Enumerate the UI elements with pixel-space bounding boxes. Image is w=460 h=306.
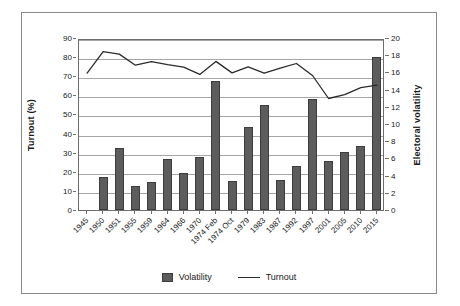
x-axis-tick	[295, 211, 296, 214]
x-axis-tick	[247, 211, 248, 214]
y-axis-left-tick-label: 60	[63, 92, 72, 100]
y-axis-left-tick-label: 40	[63, 131, 72, 139]
x-axis-tick	[263, 211, 264, 214]
x-axis-tick	[118, 211, 119, 214]
y-axis-left-tick-label: 0	[68, 207, 72, 215]
legend-label: Turnout	[266, 272, 297, 282]
y-axis-right-title: Electoral volatility	[410, 35, 424, 215]
legend-swatch-icon	[162, 273, 173, 282]
x-axis-tick	[215, 211, 216, 214]
legend-label: Volatility	[179, 272, 212, 282]
x-axis-tick	[360, 211, 361, 214]
x-axis-tick	[102, 211, 103, 214]
y-axis-right-tick-label: 10	[391, 121, 400, 129]
x-axis-tick	[312, 211, 313, 214]
legend-line-icon	[238, 277, 260, 278]
x-axis-tick	[376, 211, 377, 214]
x-axis-tick	[134, 211, 135, 214]
x-axis-tick	[86, 211, 87, 214]
x-axis-tick	[231, 211, 232, 214]
y-axis-left-tick-label: 80	[63, 54, 72, 62]
turnout-polyline	[87, 52, 377, 99]
x-axis-labels: 194519501951195519591964196619701974 Feb…	[78, 213, 384, 265]
x-axis-tick	[167, 211, 168, 214]
line-series-turnout	[79, 40, 383, 210]
y-axis-left-tick-label: 20	[63, 169, 72, 177]
y-axis-right-tick-label: 16	[391, 69, 400, 77]
plot-area	[78, 39, 384, 211]
legend-item: Volatility	[162, 272, 212, 282]
x-axis-tick	[328, 211, 329, 214]
y-axis-right-title-label: Electoral volatility	[412, 84, 422, 165]
y-axis-left-tick-label: 90	[63, 35, 72, 43]
y-axis-left-tick-label: 50	[63, 111, 72, 119]
y-axis-right-tick-label: 2	[391, 190, 395, 198]
y-axis-right-tick-label: 8	[391, 138, 395, 146]
legend-item: Turnout	[238, 272, 297, 282]
chart-frame: Turnout (%) 0102030405060708090 02468101…	[21, 12, 437, 294]
y-axis-right-tick-label: 12	[391, 104, 400, 112]
x-axis-tick	[344, 211, 345, 214]
y-axis-left-tick-label: 30	[63, 150, 72, 158]
y-axis-right-tick-label: 4	[391, 173, 395, 181]
x-axis-tick	[199, 211, 200, 214]
y-axis-left-tick-label: 70	[63, 73, 72, 81]
y-axis-right-tick-label: 0	[391, 207, 395, 215]
y-axis-right-tick-label: 14	[391, 87, 400, 95]
y-axis-right-tick-label: 20	[391, 35, 400, 43]
y-axis-left-ticks: 0102030405060708090	[22, 39, 76, 211]
x-axis-tick	[279, 211, 280, 214]
chart-legend: VolatilityTurnout	[22, 269, 436, 285]
x-axis-tick	[151, 211, 152, 214]
x-axis-tick	[183, 211, 184, 214]
y-axis-right-tick-label: 18	[391, 52, 400, 60]
y-axis-left-tick-label: 10	[63, 188, 72, 196]
y-axis-right-tick-label: 6	[391, 155, 395, 163]
